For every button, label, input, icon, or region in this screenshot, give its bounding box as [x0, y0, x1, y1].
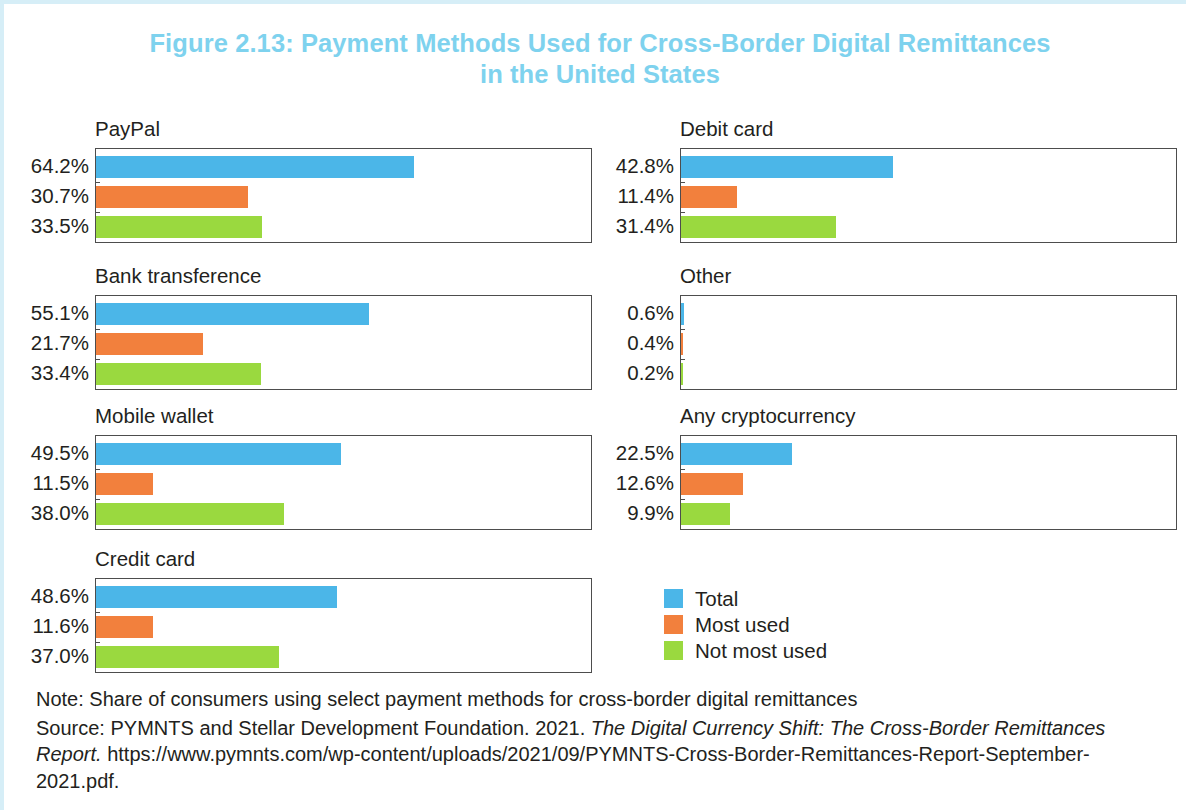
- chart-panel-bank-transference: Bank transference55.1%21.7%33.4%: [95, 295, 592, 390]
- value-label: 48.6%: [17, 585, 89, 607]
- axis-tick: [681, 359, 685, 360]
- axis-tick: [681, 182, 685, 183]
- value-label: 37.0%: [17, 645, 89, 667]
- axis-tick: [681, 469, 685, 470]
- value-label: 11.5%: [17, 472, 89, 494]
- value-label: 11.6%: [17, 615, 89, 637]
- panel-title: Credit card: [95, 547, 195, 571]
- axis-tick: [96, 612, 100, 613]
- value-label: 0.4%: [602, 332, 674, 354]
- bar-not-most-used: [96, 363, 261, 385]
- bar-row: [96, 156, 591, 178]
- bar-not-most-used: [96, 216, 262, 238]
- value-label: 0.6%: [602, 302, 674, 324]
- chart-panel-paypal: PayPal64.2%30.7%33.5%: [95, 148, 592, 243]
- legend-swatch: [664, 615, 683, 634]
- figure-title-line-1: Figure 2.13: Payment Methods Used for Cr…: [120, 28, 1080, 59]
- legend-item: Not most used: [664, 638, 827, 663]
- bar-row: [681, 333, 1176, 355]
- value-label: 33.4%: [17, 362, 89, 384]
- legend-label: Total: [695, 587, 738, 611]
- bar-total: [681, 303, 684, 325]
- bar-row: [96, 586, 591, 608]
- bar-total: [96, 443, 341, 465]
- axis-tick: [96, 329, 100, 330]
- axis-tick: [96, 499, 100, 500]
- legend-label: Not most used: [695, 639, 827, 663]
- bar-not-most-used: [96, 646, 279, 668]
- note-line: Note: Share of consumers using select pa…: [36, 686, 1161, 713]
- figure-notes: Note: Share of consumers using select pa…: [36, 686, 1161, 794]
- bar-most-used: [681, 333, 683, 355]
- chart-panel-any-cryptocurrency: Any cryptocurrency22.5%12.6%9.9%: [680, 435, 1177, 530]
- legend-item: Total: [664, 586, 827, 611]
- value-label: 9.9%: [602, 502, 674, 524]
- bar-row: [96, 616, 591, 638]
- axis-tick: [96, 642, 100, 643]
- value-label: 42.8%: [602, 155, 674, 177]
- panel-title: Any cryptocurrency: [680, 404, 855, 428]
- bar-row: [96, 186, 591, 208]
- bar-row: [681, 473, 1176, 495]
- bar-row: [681, 216, 1176, 238]
- bar-row: [96, 443, 591, 465]
- figure-title-line-2: in the United States: [120, 59, 1080, 90]
- value-label: 55.1%: [17, 302, 89, 324]
- bar-total: [96, 303, 369, 325]
- value-label: 11.4%: [602, 185, 674, 207]
- legend-swatch: [664, 589, 683, 608]
- value-label: 38.0%: [17, 502, 89, 524]
- value-label: 64.2%: [17, 155, 89, 177]
- panel-title: Debit card: [680, 117, 773, 141]
- axis-tick: [96, 359, 100, 360]
- value-label: 22.5%: [602, 442, 674, 464]
- axis-tick: [96, 469, 100, 470]
- bar-total: [96, 586, 337, 608]
- bar-row: [96, 503, 591, 525]
- bar-most-used: [96, 616, 153, 638]
- value-label: 49.5%: [17, 442, 89, 464]
- bar-not-most-used: [681, 363, 683, 385]
- plot-area: [680, 435, 1177, 530]
- source-url: https://www.pymnts.com/wp-content/upload…: [36, 743, 1090, 792]
- value-label: 12.6%: [602, 472, 674, 494]
- bar-total: [681, 443, 792, 465]
- bar-most-used: [96, 186, 248, 208]
- bar-not-most-used: [681, 216, 836, 238]
- plot-area: [680, 295, 1177, 390]
- figure-2-13: Figure 2.13: Payment Methods Used for Cr…: [0, 0, 1186, 810]
- bar-not-most-used: [681, 503, 730, 525]
- value-label: 30.7%: [17, 185, 89, 207]
- axis-tick: [681, 499, 685, 500]
- value-label: 31.4%: [602, 215, 674, 237]
- bar-most-used: [96, 473, 153, 495]
- bar-row: [96, 333, 591, 355]
- legend-item: Most used: [664, 612, 827, 637]
- chart-panel-mobile-wallet: Mobile wallet49.5%11.5%38.0%: [95, 435, 592, 530]
- bar-row: [96, 646, 591, 668]
- axis-tick: [681, 329, 685, 330]
- bar-most-used: [96, 333, 203, 355]
- plot-area: [95, 148, 592, 243]
- legend-swatch: [664, 641, 683, 660]
- bar-row: [681, 303, 1176, 325]
- chart-panel-credit-card: Credit card48.6%11.6%37.0%: [95, 578, 592, 673]
- bar-row: [96, 216, 591, 238]
- bar-row: [681, 503, 1176, 525]
- figure-title: Figure 2.13: Payment Methods Used for Cr…: [120, 28, 1080, 90]
- bar-row: [96, 303, 591, 325]
- panel-title: Other: [680, 264, 731, 288]
- bar-row: [681, 363, 1176, 385]
- value-label: 33.5%: [17, 215, 89, 237]
- bar-not-most-used: [96, 503, 284, 525]
- plot-area: [95, 295, 592, 390]
- bar-row: [681, 186, 1176, 208]
- chart-panel-debit-card: Debit card42.8%11.4%31.4%: [680, 148, 1177, 243]
- bar-most-used: [681, 473, 743, 495]
- value-label: 0.2%: [602, 362, 674, 384]
- bar-most-used: [681, 186, 737, 208]
- chart-panel-other: Other0.6%0.4%0.2%: [680, 295, 1177, 390]
- bar-row: [681, 156, 1176, 178]
- source-prefix: Source: PYMNTS and Stellar Development F…: [36, 717, 591, 739]
- source-line: Source: PYMNTS and Stellar Development F…: [36, 715, 1161, 795]
